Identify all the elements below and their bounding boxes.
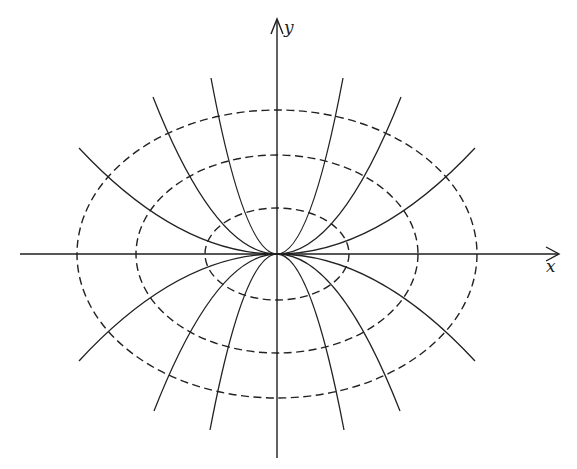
orthogonal-trajectories-diagram: x y	[0, 0, 577, 469]
y-axis-label: y	[283, 17, 294, 37]
x-axis: x	[20, 247, 559, 276]
y-axis: y	[271, 17, 294, 458]
x-axis-label: x	[546, 256, 556, 276]
